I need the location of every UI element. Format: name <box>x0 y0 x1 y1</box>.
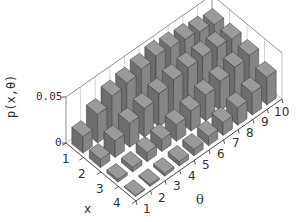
theta-tick-8: 8 <box>246 127 254 139</box>
theta-tick-1: 1 <box>143 203 151 215</box>
x-axis-label: x <box>84 203 91 215</box>
theta-axis-label: θ <box>196 193 204 206</box>
theta-tick-3: 3 <box>173 180 181 192</box>
theta-tick-5: 5 <box>202 159 210 171</box>
theta-tick-9: 9 <box>261 116 269 128</box>
bars-group <box>72 9 276 197</box>
theta-tick-10: 10 <box>274 106 289 118</box>
theta-tick-6: 6 <box>217 148 225 160</box>
x-tick-4: 4 <box>113 197 121 209</box>
theta-tick-7: 7 <box>232 137 240 149</box>
theta-tick-2: 2 <box>158 192 166 204</box>
z-tick-0.05: 0.05 <box>36 91 63 102</box>
z-axis-label: p(x,θ) <box>4 75 18 118</box>
x-tick-2: 2 <box>78 168 86 180</box>
bar3d-chart <box>0 0 302 222</box>
x-tick-3: 3 <box>96 183 104 195</box>
x-tick-1: 1 <box>62 153 70 165</box>
theta-tick-4: 4 <box>188 170 196 182</box>
z-tick-0: 0 <box>55 137 62 148</box>
